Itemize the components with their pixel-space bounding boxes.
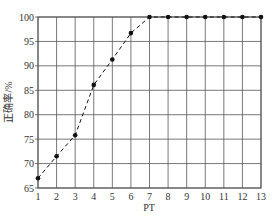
x-tick-label: 3 [73,191,78,202]
y-axis-label: 正确率/% [2,81,14,122]
x-tick-label: 4 [91,191,96,202]
data-point-marker [240,15,245,20]
x-tick-label: 11 [219,191,229,202]
y-tick-label: 70 [24,158,34,169]
y-tick-label: 90 [24,60,34,71]
x-tick-label: 9 [184,191,189,202]
data-point-marker [110,57,115,62]
x-tick-label: 5 [110,191,115,202]
y-tick-label: 100 [19,12,34,23]
data-point-marker [166,15,171,20]
data-point-marker [259,15,264,20]
y-tick-label: 65 [24,183,34,194]
grid-lines [35,17,261,188]
x-axis-ticks: 12345678910111213 [36,191,267,202]
data-point-marker [129,31,134,36]
y-tick-label: 75 [24,134,34,145]
x-tick-label: 2 [54,191,59,202]
x-tick-label: 8 [166,191,171,202]
x-tick-label: 10 [200,191,210,202]
y-tick-label: 95 [24,36,34,47]
data-point-marker [203,15,208,20]
accuracy-line-chart: 65707580859095100 12345678910111213 PT 正… [0,0,276,223]
data-point-marker [147,15,152,20]
y-axis-ticks: 65707580859095100 [19,12,34,194]
x-tick-label: 13 [256,191,266,202]
y-tick-label: 85 [24,85,34,96]
data-point-marker [73,133,78,138]
x-tick-label: 6 [128,191,133,202]
data-point-marker [222,15,227,20]
x-tick-label: 7 [147,191,152,202]
y-tick-label: 80 [24,109,34,120]
data-point-marker [36,176,41,181]
data-point-marker [54,154,59,159]
data-point-marker [184,15,189,20]
data-point-marker [91,83,96,88]
x-axis-label: PT [143,202,155,213]
x-tick-label: 12 [237,191,247,202]
x-tick-label: 1 [36,191,41,202]
